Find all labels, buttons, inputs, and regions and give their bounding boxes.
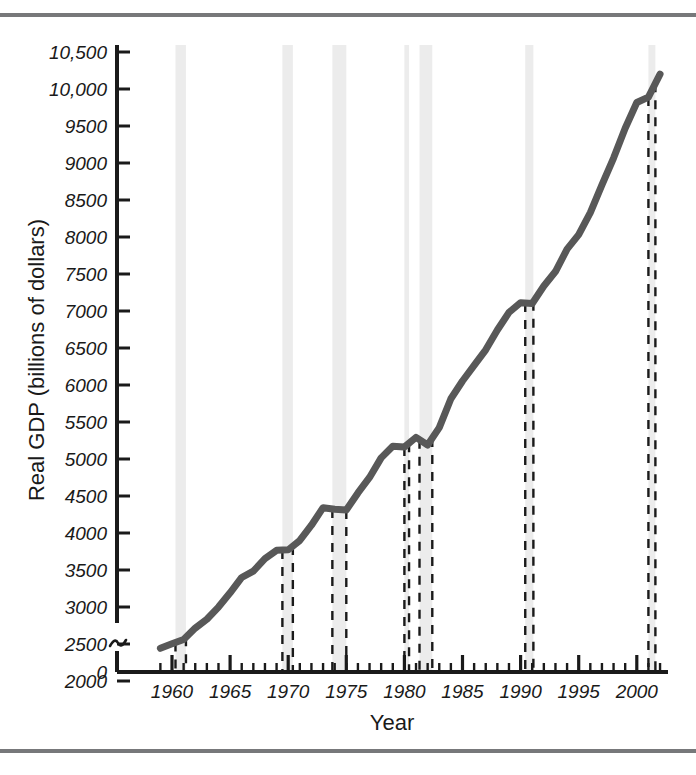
y-axis-tick-label: 9500	[65, 116, 108, 137]
x-axis-tick-label: 1970	[267, 681, 310, 702]
y-axis-tick-label: 3000	[65, 597, 108, 618]
y-axis-tick-label: 6000	[65, 375, 108, 396]
x-axis-tick-label: 1965	[209, 681, 252, 702]
y-axis-tick-label: 5500	[65, 412, 108, 433]
top-divider-rule	[0, 13, 696, 17]
y-axis-tick-label: 5000	[65, 449, 108, 470]
recession-band	[420, 45, 433, 672]
x-axis-tick-label: 1960	[151, 681, 194, 702]
y-axis-title: Real GDP (billions of dollars)	[24, 219, 49, 501]
y-axis-tick-label: 2500	[64, 634, 108, 655]
x-axis-tick-label: 1985	[441, 681, 484, 702]
y-axis-tick-label: 4000	[65, 523, 108, 544]
y-axis-tick-label: 3500	[65, 560, 108, 581]
recession-band	[282, 45, 292, 672]
y-axis-tick-label: 2000	[64, 671, 108, 692]
x-axis-ticks-group: 196019651970197519801985199019952000	[151, 655, 660, 702]
y-axis-tick-label: 4500	[65, 486, 108, 507]
x-axis-tick-label: 1990	[499, 681, 542, 702]
recession-band	[175, 45, 185, 672]
chart-canvas: 0200025003000350040004500500055006000650…	[0, 0, 696, 775]
y-axis-tick-label: 7500	[65, 264, 108, 285]
x-axis-tick-label: 1995	[558, 681, 601, 702]
y-axis-tick-label: 7000	[65, 301, 108, 322]
x-axis-title: Year	[370, 710, 414, 735]
x-axis-tick-label: 1975	[325, 681, 368, 702]
y-axis-tick-label: 8000	[65, 227, 108, 248]
x-axis-tick-label: 2000	[615, 681, 659, 702]
recession-band	[332, 45, 346, 672]
y-axis-tick-label: 9000	[65, 153, 108, 174]
y-axis-tick-label: 10,000	[49, 79, 108, 100]
gdp-chart-figure: 0200025003000350040004500500055006000650…	[0, 0, 696, 775]
y-axis-tick-label: 10,500	[49, 42, 108, 63]
recession-band	[525, 45, 533, 672]
y-axis-tick-label: 8500	[65, 190, 108, 211]
y-axis-tick-label: 6500	[65, 338, 108, 359]
recession-band	[404, 45, 409, 672]
bottom-divider-rule	[0, 749, 696, 753]
x-axis-tick-label: 1980	[383, 681, 426, 702]
